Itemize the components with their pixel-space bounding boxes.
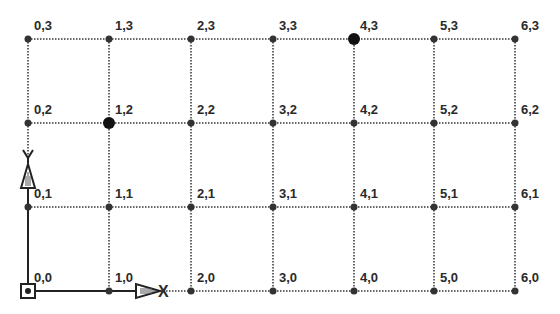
point-dot-icon (512, 204, 519, 211)
origin-dot-icon (25, 288, 31, 294)
point-dot-icon (106, 204, 113, 211)
y-axis-arrow-icon (21, 164, 35, 188)
point-label: 1,1 (115, 186, 133, 201)
point-label: 4,0 (360, 270, 378, 285)
point-label: 3,1 (279, 186, 297, 201)
point-dot-icon (512, 36, 519, 43)
point-label: 5,2 (440, 102, 458, 117)
point-dot-icon (188, 204, 195, 211)
point-label: 2,3 (197, 18, 215, 33)
point-dot-icon (270, 288, 277, 295)
point-label: 2,0 (197, 270, 215, 285)
point-label: 1,3 (115, 18, 133, 33)
point-dot-icon (270, 120, 277, 127)
point-dot-icon (106, 36, 113, 43)
point-dot-icon (188, 288, 195, 295)
point-label: 5,1 (440, 186, 458, 201)
highlighted-grid-point: 1,2 (103, 102, 133, 129)
point-label: 3,2 (279, 102, 297, 117)
grid-point: 0,0 (34, 270, 52, 285)
point-dot-icon (270, 36, 277, 43)
point-label: 1,0 (115, 270, 133, 285)
point-dot-icon (270, 204, 277, 211)
point-dot-icon (431, 36, 438, 43)
grid-point: 6,3 (512, 18, 540, 43)
point-dot-icon (431, 120, 438, 127)
point-label: 3,3 (279, 18, 297, 33)
x-axis-label: X (158, 283, 169, 300)
point-dot-icon (512, 120, 519, 127)
point-dot-icon (25, 204, 32, 211)
y-axis-label (23, 150, 33, 163)
point-label: 2,1 (197, 186, 215, 201)
point-label: 5,0 (440, 270, 458, 285)
point-label: 4,2 (360, 102, 378, 117)
point-dot-icon (106, 288, 113, 295)
point-label: 1,2 (115, 102, 133, 117)
coordinate-grid-diagram: X 0,01,02,03,04,05,06,00,11,12,13,14,15,… (0, 0, 560, 314)
point-label: 0,1 (34, 186, 52, 201)
point-label: 2,2 (197, 102, 215, 117)
point-label: 3,0 (279, 270, 297, 285)
point-dot-icon (25, 120, 32, 127)
point-dot-icon (351, 120, 358, 127)
point-dot-icon (188, 36, 195, 43)
point-label: 6,2 (521, 102, 539, 117)
point-label: 0,0 (34, 270, 52, 285)
point-dot-icon (188, 120, 195, 127)
point-dot-icon (351, 288, 358, 295)
point-dot-icon (512, 288, 519, 295)
grid-canvas: X 0,01,02,03,04,05,06,00,11,12,13,14,15,… (0, 0, 560, 314)
grid-point: 2,3 (188, 18, 216, 43)
point-dot-icon (431, 204, 438, 211)
point-label: 6,0 (521, 270, 539, 285)
point-dot-icon (103, 117, 115, 129)
point-label: 5,3 (440, 18, 458, 33)
point-dot-icon (351, 204, 358, 211)
highlighted-grid-point: 4,3 (348, 18, 378, 45)
x-axis-arrow-icon (136, 284, 160, 298)
point-label: 4,1 (360, 186, 378, 201)
point-label: 0,2 (34, 102, 52, 117)
point-label: 6,3 (521, 18, 539, 33)
point-label: 6,1 (521, 186, 539, 201)
point-label: 4,3 (360, 18, 378, 33)
point-label: 0,3 (34, 18, 52, 33)
grid-lines (28, 39, 515, 291)
point-dot-icon (348, 33, 360, 45)
point-dot-icon (25, 36, 32, 43)
grid-point: 5,3 (431, 18, 459, 43)
grid-points: 0,01,02,03,04,05,06,00,11,12,13,14,15,16… (25, 18, 540, 295)
point-dot-icon (431, 288, 438, 295)
